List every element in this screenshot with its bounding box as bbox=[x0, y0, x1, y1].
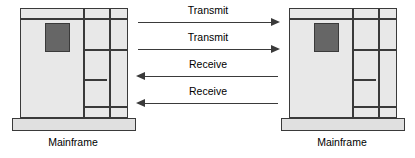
right-mainframe: Mainframe bbox=[277, 0, 407, 158]
arrow-transmit-2-label: Transmit bbox=[136, 31, 280, 43]
cabinet-top-band bbox=[290, 18, 396, 20]
arrowhead-right-icon bbox=[271, 45, 280, 53]
right-mainframe-caption: Mainframe bbox=[277, 136, 407, 148]
arrow-receive-1: Receive bbox=[136, 58, 280, 84]
cabinet-shelf-line-3 bbox=[352, 106, 396, 108]
arrow-transmit-1-label: Transmit bbox=[136, 4, 280, 16]
left-mainframe-caption: Mainframe bbox=[8, 136, 138, 148]
cabinet-shelf-line-2 bbox=[352, 79, 376, 81]
arrow-receive-2-label: Receive bbox=[136, 85, 280, 97]
cabinet-shelf-line-2 bbox=[83, 79, 107, 81]
cabinet-shelf-line-1 bbox=[352, 49, 396, 51]
arrow-transmit-2-line bbox=[138, 49, 278, 50]
cabinet-base bbox=[12, 118, 136, 131]
cabinet-vertical-divider-1 bbox=[83, 9, 85, 117]
mainframe-communication-diagram: Mainframe Mainframe Transmit Transmit Re… bbox=[0, 0, 415, 158]
arrow-receive-1-label: Receive bbox=[136, 58, 280, 70]
arrowhead-left-icon bbox=[136, 72, 145, 80]
cabinet-shelf-line-3 bbox=[83, 106, 127, 108]
arrowhead-right-icon bbox=[271, 18, 280, 26]
cabinet-shelf-line-1 bbox=[83, 49, 127, 51]
cabinet-vertical-divider-2 bbox=[378, 9, 380, 117]
arrow-transmit-2: Transmit bbox=[136, 31, 280, 57]
left-mainframe: Mainframe bbox=[8, 0, 138, 158]
arrowhead-left-icon bbox=[136, 99, 145, 107]
cabinet-top-band bbox=[21, 18, 127, 20]
arrow-transmit-1: Transmit bbox=[136, 4, 280, 30]
cabinet-body bbox=[20, 8, 128, 118]
arrow-receive-1-line bbox=[138, 76, 278, 77]
arrow-receive-2-line bbox=[138, 103, 278, 104]
cabinet-vertical-divider-1 bbox=[352, 9, 354, 117]
cabinet-vertical-divider-2 bbox=[109, 9, 111, 117]
arrow-transmit-1-line bbox=[138, 22, 278, 23]
cabinet-display-panel bbox=[314, 23, 339, 52]
cabinet-display-panel bbox=[45, 23, 70, 52]
cabinet-body bbox=[289, 8, 397, 118]
arrow-receive-2: Receive bbox=[136, 85, 280, 111]
cabinet-base bbox=[281, 118, 405, 131]
